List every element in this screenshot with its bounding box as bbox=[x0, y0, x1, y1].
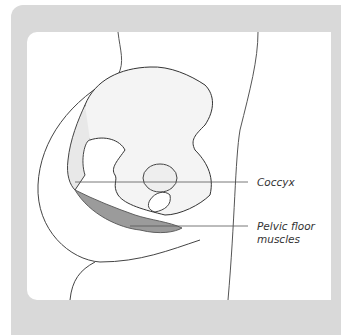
pelvic-floor-label-line2: muscles bbox=[257, 233, 300, 246]
pelvis-bone bbox=[83, 67, 212, 215]
body-outline bbox=[118, 32, 122, 75]
pelvic-floor-label-line1: Pelvic floor bbox=[257, 220, 315, 233]
coccyx-label: Coccyx bbox=[257, 176, 295, 189]
hip-socket bbox=[143, 164, 177, 192]
body-outline bbox=[228, 32, 258, 300]
sacrum bbox=[67, 105, 90, 190]
